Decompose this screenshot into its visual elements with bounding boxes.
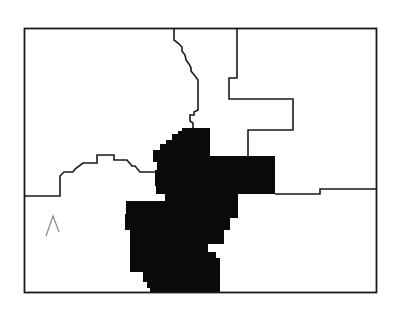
central-region-highlighted[interactable] [125,128,275,293]
boundary-north-central-east [229,28,293,156]
boundary-northeast-southeast [275,189,376,194]
faint-caret-mark [44,208,64,240]
map-canvas [0,0,401,313]
boundary-north-central-west [174,28,198,128]
boundary-northwest-southwest [24,155,155,196]
